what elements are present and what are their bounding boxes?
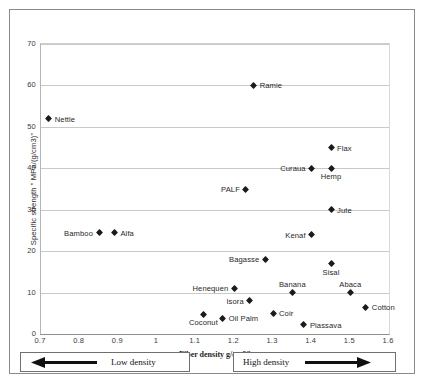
gridline-y-50 <box>41 127 389 128</box>
data-label-oil-palm: Oil Palm <box>229 314 259 323</box>
data-point-cotton <box>362 304 369 311</box>
arrow-right-icon <box>305 357 371 368</box>
x-tick-label-1.6: 1.6 <box>373 336 403 345</box>
low-density-label: Low density <box>111 357 156 367</box>
y-tick-label-70: 70 <box>10 39 36 48</box>
data-label-bagasse: Bagasse <box>229 255 259 264</box>
data-label-kenaf: Kenaf <box>285 230 305 239</box>
x-tick-label-1.1: 1.1 <box>180 336 210 345</box>
data-point-banana <box>289 289 296 296</box>
data-point-oil-palm <box>219 315 226 322</box>
x-tick-label-1.4: 1.4 <box>296 336 326 345</box>
data-point-coir <box>269 310 276 317</box>
data-label-henequen: Henequen <box>192 284 228 293</box>
data-label-bamboo: Bamboo <box>64 228 93 237</box>
y-tick-label-20: 20 <box>10 246 36 255</box>
plot-area: NettleRamieFlaxCurauaHempPALFJuteBambooA… <box>40 43 390 335</box>
data-point-nettle <box>45 115 52 122</box>
data-point-coconut <box>200 311 207 318</box>
data-label-sisal: Sisal <box>323 268 340 277</box>
data-label-jute: Jute <box>337 205 352 214</box>
data-label-nettle: Nettle <box>55 114 75 123</box>
data-label-ramie: Ramie <box>260 81 282 90</box>
figure-scatter-chart: Specific strength " MPa/(g/cm3)" 0102030… <box>0 0 427 386</box>
data-point-sisal <box>327 260 334 267</box>
gridline-y-40 <box>41 168 389 169</box>
gridline-y-20 <box>41 251 389 252</box>
x-tick-label-0.9: 0.9 <box>102 336 132 345</box>
x-tick-label-1.2: 1.2 <box>218 336 248 345</box>
data-label-curaua: Curaua <box>280 164 306 173</box>
data-label-flax: Flax <box>337 143 352 152</box>
data-label-hemp: Hemp <box>321 172 342 181</box>
x-tick-label-0.8: 0.8 <box>64 336 94 345</box>
data-point-jute <box>327 206 334 213</box>
data-point-curaua <box>308 165 315 172</box>
data-label-banana: Banana <box>279 280 306 289</box>
data-point-isora <box>246 297 253 304</box>
data-point-bagasse <box>262 256 269 263</box>
data-label-isora: Isora <box>226 296 243 305</box>
gridline-y-70 <box>41 44 389 45</box>
y-tick-label-30: 30 <box>10 204 36 213</box>
low-density-annotation: Low density <box>20 352 190 372</box>
data-point-bamboo <box>95 229 102 236</box>
x-tick-label-1.5: 1.5 <box>334 336 364 345</box>
data-label-alfa: Alfa <box>120 228 134 237</box>
arrow-left-icon <box>31 357 97 368</box>
data-label-coconut: Coconut <box>189 318 218 327</box>
high-density-annotation: High density <box>233 352 396 372</box>
data-point-hemp <box>327 165 334 172</box>
x-tick-label-1: 1 <box>141 336 171 345</box>
y-tick-label-40: 40 <box>10 163 36 172</box>
data-point-alfa <box>111 229 118 236</box>
data-label-abaca: Abaca <box>339 280 361 289</box>
data-point-henequen <box>231 285 238 292</box>
data-label-cotton: Cotton <box>372 303 395 312</box>
y-tick-label-50: 50 <box>10 121 36 130</box>
x-tick-label-1.3: 1.3 <box>257 336 287 345</box>
data-point-kenaf <box>308 231 315 238</box>
data-label-piassava: Piassava <box>310 320 342 329</box>
data-point-piassava <box>300 321 307 328</box>
data-label-coir: Coir <box>279 309 293 318</box>
data-label-palf: PALF <box>221 185 240 194</box>
x-tick-label-0.7: 0.7 <box>25 336 55 345</box>
data-point-flax <box>327 144 334 151</box>
gridline-y-60 <box>41 85 389 86</box>
data-point-palf <box>242 185 249 192</box>
x-axis-ticks: 0.70.80.911.11.21.31.41.51.6 <box>40 336 390 350</box>
y-tick-label-10: 10 <box>10 287 36 296</box>
data-point-ramie <box>250 82 257 89</box>
data-point-abaca <box>347 289 354 296</box>
y-axis-ticks: 010203040506070 <box>8 43 36 335</box>
high-density-label: High density <box>243 357 289 367</box>
y-tick-label-60: 60 <box>10 80 36 89</box>
